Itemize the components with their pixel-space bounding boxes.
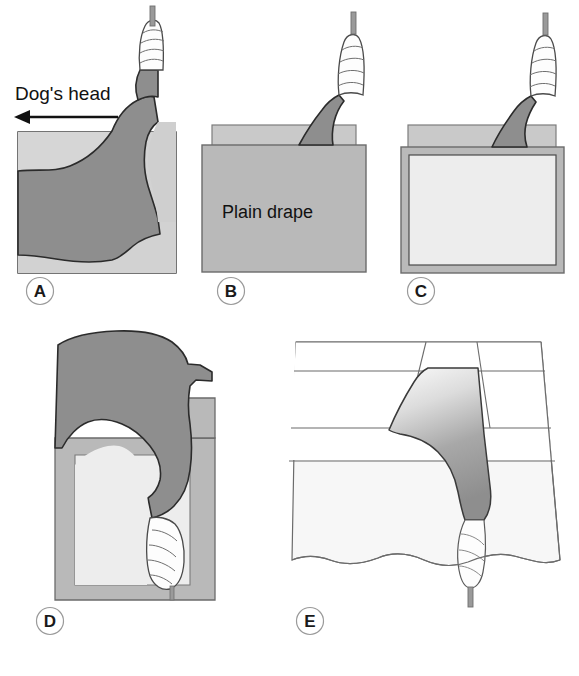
panel-d-suspension-rod <box>170 586 174 600</box>
panel-letter-b-text: B <box>225 282 237 301</box>
panel-letter-d-text: D <box>44 612 56 631</box>
panel-letter-d: D <box>37 608 64 635</box>
panel-b-under-drape-strip <box>212 125 356 146</box>
panel-c-fenestration-window <box>409 155 556 265</box>
panel-letter-c: C <box>408 278 435 305</box>
figure-root: Dog's head A Plain drape <box>0 0 579 676</box>
panel-letter-c-text: C <box>415 282 427 301</box>
panel-b-suspension-rod <box>351 12 356 34</box>
panel-letter-a-text: A <box>34 282 46 301</box>
direction-label: Dog's head <box>15 83 111 104</box>
panel-e-bandaged-limb <box>458 520 486 588</box>
panel-d-window-inner-shade <box>75 445 148 585</box>
panel-c-under-drape-strip <box>408 125 556 149</box>
panel-letter-b: B <box>218 278 245 305</box>
panel-e-suspension-rod <box>468 587 473 607</box>
plain-drape-label: Plain drape <box>222 202 313 222</box>
panel-c-suspension-rod <box>543 13 548 35</box>
surgical-draping-figure: Dog's head A Plain drape <box>0 0 579 676</box>
panel-d: D <box>37 331 216 635</box>
panel-letter-e-text: E <box>304 612 315 631</box>
panel-d-bandaged-limb <box>147 517 185 589</box>
panel-a-proximal-limb <box>136 70 158 100</box>
panel-letter-e: E <box>297 608 324 635</box>
panel-a-suspension-rod <box>150 6 155 26</box>
panel-letter-a: A <box>27 278 54 305</box>
